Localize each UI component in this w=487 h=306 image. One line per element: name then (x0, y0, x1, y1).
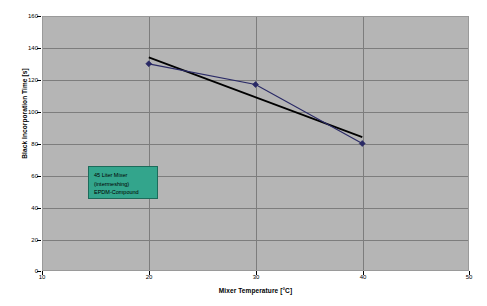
data-series-overlay (0, 0, 487, 306)
x-tick-label: 50 (454, 274, 484, 280)
x-tick-label: 10 (27, 274, 57, 280)
y-tick-label: 160 (4, 13, 38, 19)
x-tick-label: 20 (134, 274, 164, 280)
y-axis-ticks: 160 140 120 100 80 60 40 20 0 (0, 0, 38, 306)
data-point-marker (253, 82, 259, 88)
data-line-series (149, 64, 362, 144)
x-tick-label: 30 (241, 274, 271, 280)
y-tick-label: 40 (4, 205, 38, 211)
x-axis-title: Mixer Temperature [°C] (42, 287, 469, 294)
data-point-marker (146, 61, 152, 67)
chart-container: 45 Liter Mixer (intermeshing) EPDM-Compo… (0, 0, 487, 306)
data-point-marker (359, 141, 365, 147)
y-axis-title: Black Incorporation Time [s] (21, 44, 28, 184)
x-tick-label: 40 (348, 274, 378, 280)
y-tick-label: 20 (4, 237, 38, 243)
